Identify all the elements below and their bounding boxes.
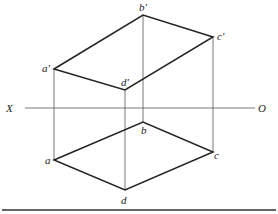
axis-label-o: O [258,102,266,114]
bottom-quadrilateral [54,122,213,190]
diagram-svg: X O b' c' a' d' b c a d [0,0,278,214]
label-d-prime: d' [121,76,130,88]
label-a: a [45,154,51,166]
label-c: c [214,149,219,161]
axis-label-x: X [5,102,14,114]
top-quadrilateral [54,15,213,90]
label-c-prime: c' [217,30,225,42]
label-b-prime: b' [139,1,148,13]
label-b: b [141,124,147,136]
projection-diagram: X O b' c' a' d' b c a d [0,0,278,214]
label-a-prime: a' [42,62,51,74]
label-d: d [121,194,127,206]
